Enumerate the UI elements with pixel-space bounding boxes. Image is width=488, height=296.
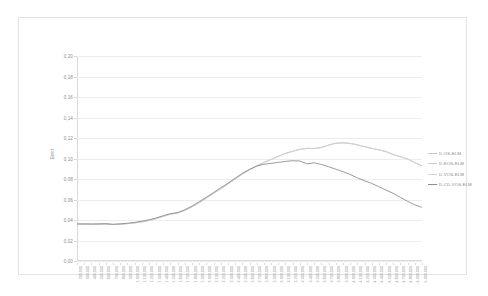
- legend-line-swatch: [428, 174, 437, 175]
- x-axis-tick-label: 3.500.000: [316, 266, 320, 282]
- legend-label: D-OS-ELM: [439, 151, 461, 156]
- x-axis-tick-label: 5.000.000: [424, 266, 428, 282]
- x-axis-tick-label: 2.800.000: [265, 266, 269, 282]
- legend-label: D-EOS-ELM: [439, 161, 464, 166]
- x-axis-tick-label: 2.600.000: [251, 266, 255, 282]
- x-axis-tick-mark: [170, 263, 171, 265]
- legend-line-swatch: [428, 163, 437, 164]
- x-axis-tick-label: 3.300.000: [301, 266, 305, 282]
- y-axis-tick-label: 0,20: [64, 54, 73, 59]
- x-axis-tick-label: 1.200.000: [150, 266, 154, 282]
- x-axis-tick-mark: [91, 263, 92, 265]
- x-axis-tick-label: 2.000.000: [208, 266, 212, 282]
- x-axis-tick-mark: [336, 263, 337, 265]
- x-axis-tick-mark: [77, 263, 78, 265]
- legend-line-swatch: [428, 184, 437, 185]
- x-axis-tick-mark: [278, 263, 279, 265]
- y-axis-tick-label: 0,02: [64, 238, 73, 243]
- series-line: [77, 143, 422, 225]
- x-axis-tick-mark: [235, 263, 236, 265]
- x-axis-tick-label: 4.400.000: [380, 266, 384, 282]
- y-axis-tick-label: 0,08: [64, 177, 73, 182]
- x-axis-tick-mark: [99, 263, 100, 265]
- x-axis-tick-mark: [206, 263, 207, 265]
- series-line: [77, 143, 422, 225]
- plot-area: 0,000,020,040,060,080,100,120,140,160,18…: [77, 56, 422, 261]
- x-axis-tick-label: 3.400.000: [309, 266, 313, 282]
- x-axis-tick-label: 1.100.000: [143, 266, 147, 282]
- y-axis-tick-label: 0,06: [64, 197, 73, 202]
- x-axis-tick-mark: [329, 263, 330, 265]
- x-axis-tick-mark: [149, 263, 150, 265]
- y-axis-tick-mark: [74, 261, 77, 262]
- x-axis-tick-label: 1.600.000: [179, 266, 183, 282]
- x-axis-tick-mark: [142, 263, 143, 265]
- x-axis-tick-label: 1.800.000: [194, 266, 198, 282]
- x-axis-tick-mark: [242, 263, 243, 265]
- legend-item[interactable]: D-CD-VOS-ELM: [428, 180, 486, 191]
- x-axis-tick-label: 800.000: [122, 266, 126, 279]
- x-axis-tick-mark: [307, 263, 308, 265]
- x-axis-tick-mark: [365, 263, 366, 265]
- x-axis-tick-mark: [314, 263, 315, 265]
- legend-item[interactable]: D-EOS-ELM: [428, 159, 486, 170]
- series-svg: [77, 56, 422, 261]
- x-axis-tick-label: 1.300.000: [158, 266, 162, 282]
- x-axis-tick-label: 3.600.000: [323, 266, 327, 282]
- x-axis-tick-label: 1.000.000: [136, 266, 140, 282]
- x-axis-tick-label: 3.700.000: [330, 266, 334, 282]
- x-axis-tick-mark: [400, 263, 401, 265]
- gridline: [77, 261, 422, 262]
- x-axis-tick-mark: [285, 263, 286, 265]
- x-axis-tick-label: 4.200.000: [366, 266, 370, 282]
- x-axis-tick-label: 4.300.000: [373, 266, 377, 282]
- x-axis-tick-mark: [415, 263, 416, 265]
- x-axis-tick-mark: [185, 263, 186, 265]
- x-axis-tick-mark: [199, 263, 200, 265]
- x-axis-tick-mark: [106, 263, 107, 265]
- x-axis-tick-mark: [372, 263, 373, 265]
- x-axis-tick-mark: [214, 263, 215, 265]
- x-axis-tick-mark: [422, 263, 423, 265]
- y-axis-tick-label: 0,16: [64, 95, 73, 100]
- x-axis-tick-label: 3.000.000: [280, 266, 284, 282]
- x-axis-tick-label: 2.500.000: [244, 266, 248, 282]
- legend-item[interactable]: D-VOS-ELM: [428, 169, 486, 180]
- x-axis-tick-label: 4.600.000: [395, 266, 399, 282]
- x-axis-tick-mark: [257, 263, 258, 265]
- x-axis-tick-mark: [379, 263, 380, 265]
- y-axis-tick-label: 0,12: [64, 136, 73, 141]
- x-axis-tick-label: 400.000: [93, 266, 97, 279]
- x-axis-tick-label: 1.400.000: [165, 266, 169, 282]
- x-axis-tick-label: 3.900.000: [345, 266, 349, 282]
- x-axis-tick-mark: [293, 263, 294, 265]
- legend-line-swatch: [428, 153, 437, 154]
- x-axis-tick-label: 3.100.000: [287, 266, 291, 282]
- y-axis-tick-label: 0,00: [64, 259, 73, 264]
- legend-label: D-VOS-ELM: [439, 172, 464, 177]
- y-axis-tick-label: 0,10: [64, 156, 73, 161]
- x-axis-tick-label: 2.900.000: [273, 266, 277, 282]
- x-axis-tick-mark: [192, 263, 193, 265]
- x-axis-tick-mark: [163, 263, 164, 265]
- x-axis-tick-label: 4.800.000: [409, 266, 413, 282]
- x-axis-tick-mark: [357, 263, 358, 265]
- x-axis-tick-label: 600.000: [107, 266, 111, 279]
- x-axis-ticks: 200.000300.000400.000500.000600.000700.0…: [77, 263, 422, 296]
- x-axis-tick-label: 200.000: [79, 266, 83, 279]
- x-axis-tick-mark: [221, 263, 222, 265]
- x-axis-tick-label: 4.000.000: [352, 266, 356, 282]
- x-axis-tick-mark: [271, 263, 272, 265]
- x-axis-tick-mark: [350, 263, 351, 265]
- x-axis-tick-mark: [228, 263, 229, 265]
- x-axis-tick-label: 2.400.000: [237, 266, 241, 282]
- x-axis-tick-label: 1.500.000: [172, 266, 176, 282]
- legend-label: D-CD-VOS-ELM: [439, 182, 472, 187]
- x-axis-tick-label: 4.500.000: [388, 266, 392, 282]
- chart-legend: D-OS-ELMD-EOS-ELMD-VOS-ELMD-CD-VOS-ELM: [428, 148, 486, 190]
- x-axis-tick-label: 1.900.000: [201, 266, 205, 282]
- legend-item[interactable]: D-OS-ELM: [428, 148, 486, 159]
- x-axis-tick-mark: [264, 263, 265, 265]
- x-axis-tick-mark: [135, 263, 136, 265]
- x-axis-tick-mark: [343, 263, 344, 265]
